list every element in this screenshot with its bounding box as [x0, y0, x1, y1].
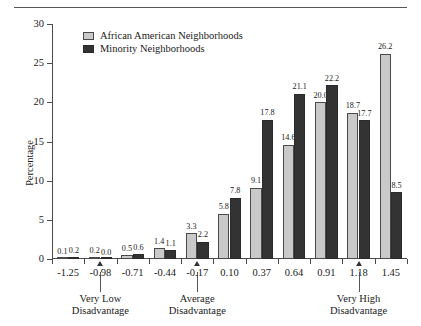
x-tick-0 [52, 259, 53, 264]
annotation-marker-0 [97, 261, 103, 266]
annotation-label-line2-1: Disadvantage [169, 305, 226, 317]
legend-swatch-african-american [83, 32, 94, 40]
bar-value-label--0.44-african-american: 1.4 [154, 238, 164, 246]
y-tick-20 [47, 102, 52, 103]
bar--0.44-minority [165, 250, 176, 259]
bar-value-label-1.45-african-american: 26.2 [378, 43, 392, 51]
bar-value-label-1.45-minority: 8.5 [391, 182, 401, 190]
bar-value-label--1.25-african-american: 0.1 [57, 248, 67, 256]
bar-value-label--0.71-african-american: 0.5 [122, 245, 132, 253]
y-tick-5 [47, 220, 52, 221]
bar--0.98-african-american [89, 257, 100, 259]
annotation-label-line2-2: Disadvantage [330, 305, 387, 317]
y-tick-label-30: 30 [34, 19, 45, 30]
bar-value-label--0.17-minority: 2.2 [198, 231, 208, 239]
legend-entry-1: Minority Neighborhoods [83, 43, 243, 54]
x-tick-label-1.45: 1.45 [382, 267, 400, 278]
y-tick-label-10: 10 [34, 175, 45, 186]
x-tick-5 [213, 259, 214, 264]
x-tick-4 [181, 259, 182, 264]
bar--0.44-african-american [154, 248, 165, 259]
y-tick-10 [47, 181, 52, 182]
figure-top-rule [14, 7, 407, 8]
bar-value-label--1.25-minority: 0.2 [69, 247, 79, 255]
y-tick-label-20: 20 [34, 97, 45, 108]
x-tick-label--0.44: -0.44 [154, 267, 176, 278]
bar-0.37-minority [262, 120, 273, 259]
x-tick-1 [84, 259, 85, 264]
annotation-1: AverageDisadvantage [169, 293, 226, 317]
y-tick-label-15: 15 [34, 136, 45, 147]
legend-label-1: Minority Neighborhoods [100, 43, 205, 54]
y-tick-label-0: 0 [39, 254, 44, 265]
bar-0.10-african-american [218, 214, 229, 259]
bar-1.45-minority [391, 192, 402, 259]
x-tick-3 [149, 259, 150, 264]
bar--0.17-minority [197, 242, 208, 259]
annotation-leader-line-2 [359, 272, 360, 292]
annotation-marker-2 [356, 261, 362, 266]
bar--1.25-african-american [57, 257, 68, 259]
annotation-label-line1-2: Very High [330, 293, 387, 305]
bar--0.98-minority [101, 257, 112, 259]
annotation-label-line1-1: Average [169, 293, 226, 305]
bar-1.45-african-american [380, 54, 391, 259]
x-tick-7 [278, 259, 279, 264]
bar-0.91-african-american [315, 102, 326, 259]
x-tick-6 [246, 259, 247, 264]
legend-entry-0: African American Neighborhoods [83, 30, 243, 41]
bar-1.18-minority [359, 120, 370, 259]
x-tick-label--0.71: -0.71 [122, 267, 144, 278]
annotation-leader-line-0 [100, 272, 101, 292]
x-tick-label-0.64: 0.64 [285, 267, 303, 278]
legend-label-0: African American Neighborhoods [100, 30, 243, 41]
x-tick-label-0.37: 0.37 [253, 267, 271, 278]
annotation-label-line2-0: Disadvantage [72, 305, 129, 317]
bar--1.25-minority [68, 257, 79, 259]
bar--0.17-african-american [186, 233, 197, 259]
bar-0.91-minority [326, 85, 337, 259]
x-tick-8 [310, 259, 311, 264]
bar-value-label-0.10-african-american: 5.8 [219, 203, 229, 211]
annotation-label-line1-0: Very Low [72, 293, 129, 305]
x-tick-11 [407, 259, 408, 264]
x-tick-10 [375, 259, 376, 264]
bar-value-label--0.71-minority: 0.6 [133, 244, 143, 252]
bar-0.10-minority [230, 198, 241, 259]
y-axis-line [52, 24, 53, 259]
bar-1.18-african-american [347, 113, 358, 259]
annotation-leader-line-1 [197, 272, 198, 292]
annotation-2: Very HighDisadvantage [330, 293, 387, 317]
bar-value-label-0.10-minority: 7.8 [230, 187, 240, 195]
annotation-0: Very LowDisadvantage [72, 293, 129, 317]
bar-0.64-minority [294, 94, 305, 259]
plot-area: 051015202530 -1.25-0.98-0.71-0.44-0.170.… [52, 24, 407, 259]
bar--0.71-african-american [121, 255, 132, 259]
x-tick-label-0.91: 0.91 [317, 267, 335, 278]
bar-value-label-1.18-minority: 17.7 [357, 110, 371, 118]
bar-value-label-0.37-minority: 17.8 [260, 109, 274, 117]
bar-value-label--0.44-minority: 1.1 [166, 240, 176, 248]
bar-0.37-african-american [250, 188, 261, 259]
bar-value-label--0.98-minority: 0.0 [101, 249, 111, 257]
y-tick-label-25: 25 [34, 58, 45, 69]
legend-swatch-minority [83, 45, 94, 53]
bar-value-label-0.37-african-american: 9.1 [251, 177, 261, 185]
figure-header-fragment [14, 0, 407, 6]
x-tick-9 [342, 259, 343, 264]
bar-value-label-0.64-minority: 21.1 [293, 83, 307, 91]
x-tick-label-0.10: 0.10 [220, 267, 238, 278]
y-tick-label-5: 5 [39, 215, 44, 226]
annotation-marker-1 [194, 261, 200, 266]
bar-0.64-african-american [283, 145, 294, 259]
x-tick-2 [117, 259, 118, 264]
y-tick-30 [47, 24, 52, 25]
bar-value-label-0.91-minority: 22.2 [325, 75, 339, 83]
bar--0.71-minority [133, 254, 144, 259]
y-tick-25 [47, 63, 52, 64]
bar-value-label--0.98-african-american: 0.2 [90, 247, 100, 255]
chart-legend: African American Neighborhoods Minority … [83, 30, 243, 56]
figure-panel: Percentage 051015202530 -1.25-0.98-0.71-… [0, 0, 421, 326]
x-tick-label--1.25: -1.25 [57, 267, 79, 278]
y-tick-15 [47, 142, 52, 143]
